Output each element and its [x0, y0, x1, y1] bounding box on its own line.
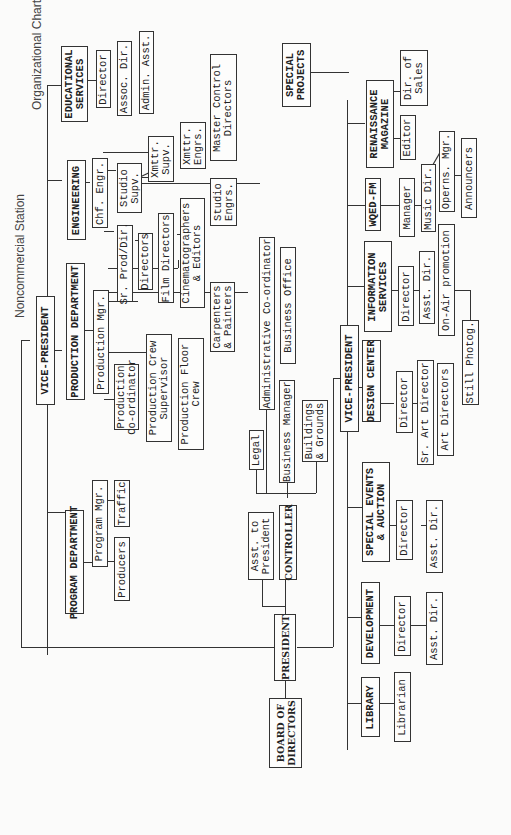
- special-events-asst-dir-box[interactable]: Asst. Dir.: [426, 500, 443, 573]
- educational-services-box[interactable]: EDUCATIONAL SERVICES: [61, 46, 88, 122]
- library-box[interactable]: LIBRARY: [361, 677, 380, 737]
- traffic-box[interactable]: Traffic: [114, 480, 130, 527]
- cinematographers-editors-box[interactable]: Cinematographers & Editors: [180, 198, 205, 308]
- asst-to-president-box[interactable]: Asst. to President: [248, 512, 274, 580]
- editor-box[interactable]: Editor: [400, 115, 416, 160]
- music-dir-box[interactable]: Music Dir.: [421, 164, 436, 232]
- design-center-box[interactable]: DESIGN CENTER: [362, 340, 381, 422]
- business-manager-box[interactable]: Business Manager: [279, 380, 295, 483]
- film-directors-box[interactable]: Film Directors: [158, 213, 174, 303]
- business-office-box[interactable]: Business Office: [280, 247, 296, 364]
- wqed-fm-box[interactable]: WQED-FM: [365, 178, 381, 231]
- operns-mgr-box[interactable]: Operns. Mgr.: [439, 131, 455, 212]
- special-projects-box[interactable]: SPECIAL PROJECTS: [282, 43, 311, 107]
- buildings-grounds-box[interactable]: Buildings & Grounds: [302, 400, 328, 462]
- controller-box[interactable]: CONTROLLER: [279, 505, 297, 580]
- program-mgr-box[interactable]: Program Mgr.: [92, 480, 108, 567]
- sr-art-director-box[interactable]: Sr. Art Director: [417, 360, 434, 465]
- xmttr-supv-box[interactable]: Xmttr. Supv.: [148, 136, 174, 182]
- board-of-directors-box[interactable]: BOARD OF DIRECTORS: [269, 698, 302, 768]
- studio-supv-box[interactable]: Studio Supv.: [117, 163, 142, 213]
- vice-president-upper-box[interactable]: VICE-PRESIDENT: [36, 296, 55, 405]
- studio-engrs-box[interactable]: Studio Engrs.: [210, 178, 237, 226]
- special-events-auction-box[interactable]: SPECIAL EVENTS & AUCTION: [362, 462, 390, 562]
- dir-of-sales-box[interactable]: Dir. of Sales: [400, 50, 428, 106]
- program-department-box[interactable]: PROGRAM DEPARTMENT: [65, 510, 84, 614]
- librarian-box[interactable]: Librarian: [394, 672, 411, 742]
- still-photog-box[interactable]: Still Photog.: [462, 320, 479, 405]
- xmttr-engrs-box[interactable]: Xmttr. Engrs.: [180, 122, 206, 169]
- carpenters-painters-box[interactable]: Carpenters & Painters: [210, 282, 235, 352]
- production-crew-supervisor-box[interactable]: Production Crew Supervisor: [146, 334, 172, 442]
- producers-box[interactable]: Producers: [114, 537, 130, 601]
- master-control-directors-box[interactable]: Master Control Directors: [210, 54, 237, 161]
- educational-director-box[interactable]: Director: [96, 50, 111, 108]
- production-department-box[interactable]: PRODUCTION DEPARTMENT: [66, 263, 85, 400]
- diagonal-connectors: [0, 0, 511, 835]
- engineering-box[interactable]: ENGINEERING: [67, 160, 86, 240]
- production-coordinator-box[interactable]: Production Co-ordinator: [114, 364, 139, 430]
- wqed-fm-manager-box[interactable]: Manager: [399, 178, 415, 237]
- vice-president-lower-box[interactable]: VICE-PRESIDENT: [340, 325, 359, 432]
- development-box[interactable]: DEVELOPMENT: [361, 582, 380, 664]
- information-director-box[interactable]: Director: [398, 266, 414, 326]
- information-services-box[interactable]: INFORMATION SERVICES: [364, 241, 392, 332]
- announcers-box[interactable]: Announcers: [461, 138, 477, 218]
- information-asst-dir-box[interactable]: Asst. Dir.: [419, 251, 435, 324]
- special-events-director-box[interactable]: Director: [396, 500, 413, 560]
- chf-engr-box[interactable]: Chf. Engr.: [92, 158, 108, 228]
- admin-asst-box[interactable]: Admin. Asst.: [139, 31, 154, 114]
- legal-box[interactable]: Legal: [249, 430, 264, 470]
- development-director-box[interactable]: Director: [394, 596, 411, 656]
- renaissance-magazine-box[interactable]: RENAISSANCE MAGAZINE: [366, 80, 394, 168]
- production-floor-crew-box[interactable]: Production Floor Crew: [178, 338, 204, 450]
- assoc-dir-box[interactable]: Assoc. Dir.: [117, 41, 132, 116]
- production-mgr-box[interactable]: Production Mgr.: [93, 290, 109, 394]
- sr-prod-dir-box[interactable]: Sr. Prod/Dir.: [117, 225, 133, 302]
- directors-box[interactable]: Directors: [138, 233, 153, 290]
- art-directors-box[interactable]: Art Directors: [437, 363, 454, 456]
- on-air-promotion-box[interactable]: On-Air promotion: [438, 224, 455, 336]
- design-center-director-box[interactable]: Director: [396, 371, 413, 433]
- administrative-coordinator-box[interactable]: Administrative Co-ordinator: [259, 237, 275, 410]
- president-box[interactable]: PRESIDENT: [274, 614, 296, 681]
- development-asst-dir-box[interactable]: Asst. Dir.: [426, 592, 443, 665]
